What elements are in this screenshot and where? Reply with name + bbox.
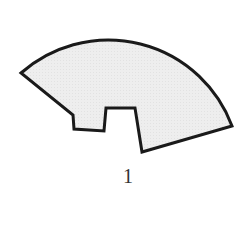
notched-sector-shape <box>21 40 232 152</box>
figure-label: 1 <box>0 164 246 188</box>
